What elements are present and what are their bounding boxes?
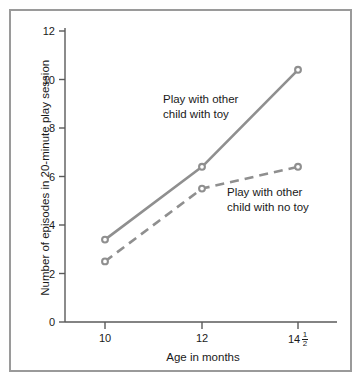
data-point-notoy-14h (295, 164, 301, 170)
data-point-toy-10 (102, 237, 108, 243)
x-axis-ticks (105, 322, 298, 329)
annotation-notoy-line2: child with no toy (227, 200, 309, 215)
y-axis-ticks (59, 31, 65, 322)
data-point-toy-12 (199, 164, 205, 170)
data-point-toy-14h (295, 67, 301, 73)
x-tick-label-fraction-half: 12 (302, 331, 308, 349)
x-axis-title: Age in months (113, 352, 293, 364)
annotation-toy-line2: child with toy (163, 107, 238, 122)
x-tick-label-12: 12 (182, 333, 222, 344)
annotation-notoy-line1: Play with other (227, 185, 309, 200)
y-axis-title: Number of episodes in 20-minute play ses… (40, 53, 52, 303)
x-tick-label-10: 10 (85, 333, 125, 344)
x-tick-label-14-and-a-half: 1412 (278, 331, 318, 349)
data-point-notoy-10 (102, 259, 108, 265)
annotation-toy-line1: Play with other (163, 92, 238, 107)
annotation-play-with-no-toy: Play with other child with no toy (227, 185, 309, 214)
data-point-notoy-12 (199, 186, 205, 192)
annotation-play-with-toy: Play with other child with toy (163, 92, 238, 121)
fraction-denominator: 2 (302, 340, 308, 348)
chart-figure: 12 10 8 6 4 2 0 10 12 1412 Age in months… (0, 0, 362, 381)
x-tick-label-14-whole: 14 (288, 333, 300, 345)
y-tick-label-0: 0 (29, 317, 55, 328)
y-tick-label-12: 12 (29, 26, 55, 37)
